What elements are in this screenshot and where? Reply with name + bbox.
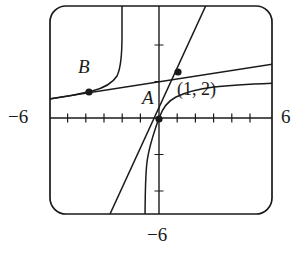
- point-B-label: B: [78, 57, 90, 76]
- calculator-screen-frame: [50, 6, 272, 214]
- point-coordinate-label: (1, 2): [177, 80, 216, 98]
- x-axis-max-label: 6: [281, 107, 291, 126]
- figure-container: −6 6 −6 A B (1, 2): [0, 0, 306, 256]
- graph-canvas: [0, 0, 306, 256]
- y-axis-min-label: −6: [147, 225, 167, 244]
- point-A-marker: [155, 115, 162, 122]
- point-B-marker: [85, 88, 92, 95]
- point-A-label: A: [142, 88, 154, 107]
- point-1-2-marker: [174, 68, 181, 75]
- x-axis-min-label: −6: [8, 107, 28, 126]
